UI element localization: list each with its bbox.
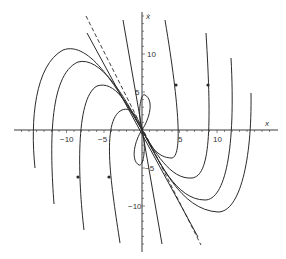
phase-portrait-svg: −10 −5 5 10 10 5 −5 −10 x ẋ [0, 0, 286, 259]
x-axis-label: x [264, 119, 270, 128]
trajectory [134, 130, 144, 165]
marker-dot [107, 175, 110, 178]
trajectory [109, 109, 142, 243]
y-tick-label: −10 [128, 202, 142, 211]
trajectory [140, 95, 150, 130]
marker-dot [76, 175, 79, 178]
trajectory [142, 93, 251, 212]
x-tick-label: 5 [178, 135, 183, 144]
y-axis-label: ẋ [145, 12, 151, 21]
marker-dot [174, 83, 177, 86]
phase-portrait-figure: −10 −5 5 10 10 5 −5 −10 x ẋ [0, 0, 286, 259]
trajectory [142, 58, 232, 200]
trajectories-left [33, 49, 142, 243]
trajectory [142, 20, 178, 158]
x-tick-labels: −10 −5 5 10 [60, 135, 222, 144]
axes [14, 12, 278, 252]
trajectory [33, 49, 142, 168]
y-tick-label: 10 [147, 50, 156, 59]
x-tick-label: 10 [213, 135, 222, 144]
trajectory [52, 61, 142, 204]
trajectories-right [142, 20, 251, 212]
marker-dot [206, 83, 209, 86]
x-tick-label: −10 [60, 135, 74, 144]
x-tick-label: −5 [98, 135, 108, 144]
